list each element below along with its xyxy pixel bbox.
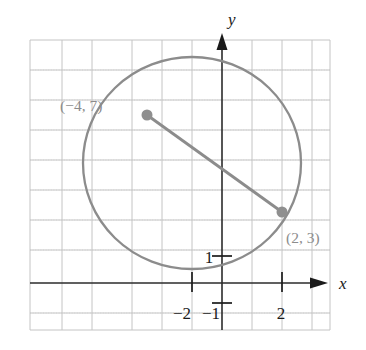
- coordinate-plane-figure: (−4, 7) (2, 3) −2 −1 2 1 x y: [0, 0, 366, 350]
- grid-major-vertical: [30, 40, 330, 330]
- x-axis-arrow: [310, 278, 328, 289]
- point-label-a: (−4, 7): [60, 97, 102, 115]
- x-tick-label-neg2: −2: [173, 304, 191, 323]
- grid-lines: [30, 40, 330, 330]
- y-tick-label-1: 1: [205, 248, 214, 267]
- grid-major-horizontal: [30, 40, 330, 330]
- axes: [30, 33, 328, 330]
- point-label-b: (2, 3): [286, 229, 320, 247]
- point-marker-a[interactable]: [142, 110, 153, 121]
- graph-canvas: (−4, 7) (2, 3) −2 −1 2 1 x y: [0, 0, 366, 350]
- x-tick-label-neg1: −1: [202, 304, 220, 323]
- y-axis-arrow: [217, 33, 228, 50]
- x-tick-label-2: 2: [277, 304, 286, 323]
- x-axis-label: x: [338, 274, 347, 293]
- y-axis-label: y: [226, 10, 236, 29]
- point-marker-b[interactable]: [277, 207, 288, 218]
